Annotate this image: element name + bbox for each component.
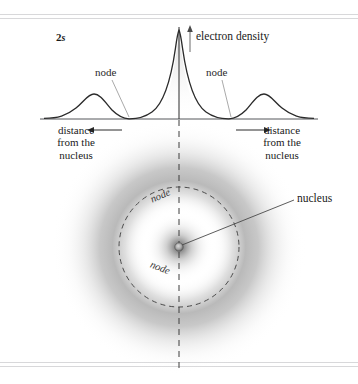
orbital-figure: 2s electron density node node distance f… bbox=[0, 0, 358, 384]
orbital-letter: s bbox=[62, 32, 66, 43]
electron-density-axis-label: electron density bbox=[196, 30, 269, 43]
orbital-label: 2s bbox=[56, 31, 65, 43]
node-leader-line-left bbox=[112, 80, 129, 117]
distance-right-line1: distance bbox=[246, 124, 318, 136]
node-leader-line-right bbox=[222, 80, 231, 117]
distance-left-line2: from the bbox=[40, 136, 112, 148]
electron-density-arrow-head bbox=[187, 25, 193, 32]
distance-label-left: distance from the nucleus bbox=[40, 124, 112, 161]
distance-right-line3: nucleus bbox=[246, 149, 318, 161]
nucleus-label: nucleus bbox=[297, 192, 332, 205]
distance-right-line2: from the bbox=[246, 136, 318, 148]
node-label-left: node bbox=[95, 66, 116, 78]
nucleus-dot bbox=[175, 243, 183, 251]
distance-label-right: distance from the nucleus bbox=[246, 124, 318, 161]
distance-left-line1: distance bbox=[40, 124, 112, 136]
distance-left-line3: nucleus bbox=[40, 149, 112, 161]
node-label-right: node bbox=[206, 66, 227, 78]
